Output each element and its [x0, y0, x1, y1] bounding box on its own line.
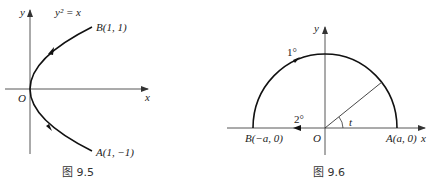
angle-arc: [339, 117, 343, 128]
equation-label: y² = x: [54, 6, 81, 18]
point-a-label: A(a, 0): [385, 132, 417, 145]
origin-label: O: [18, 92, 26, 104]
point-b-label: B(1, 1): [96, 21, 127, 34]
path-label-1: 1°: [287, 46, 297, 58]
figure-caption: 图 9.6: [313, 166, 345, 179]
radius-line: [325, 82, 382, 128]
angle-label: t: [349, 116, 353, 128]
direction-arrow-icon: [293, 125, 301, 131]
figure-canvas: y y² = x B(1, 1) O x A(1, −1) 图 9.5 y 1°…: [0, 0, 428, 188]
path-label-2: 2°: [294, 113, 304, 125]
figure-9-6: y 1° 2° t B(−a, 0) O A(a, 0) x 图 9.6: [227, 22, 426, 179]
x-axis-label: x: [420, 132, 426, 144]
x-axis-label: x: [144, 91, 150, 103]
point-b-label: B(−a, 0): [245, 132, 283, 145]
figure-9-5: y y² = x B(1, 1) O x A(1, −1) 图 9.5: [5, 6, 150, 179]
figure-caption: 图 9.5: [62, 166, 94, 179]
point-a-label: A(1, −1): [95, 146, 134, 159]
y-axis-label: y: [313, 22, 319, 34]
y-axis-label: y: [19, 6, 25, 18]
direction-arrow-icon: [48, 47, 54, 55]
origin-label: O: [313, 132, 321, 144]
